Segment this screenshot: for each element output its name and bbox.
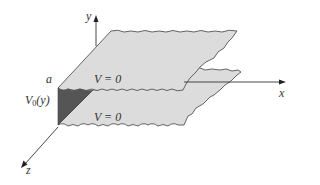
- y-axis-label: y: [86, 10, 91, 22]
- end-potential-label: V0(y): [25, 94, 50, 108]
- x-axis-label: x: [279, 87, 284, 99]
- z-axis: [25, 127, 58, 164]
- height-label-a: a: [46, 73, 52, 85]
- y-axis-arrow-icon: [94, 15, 99, 22]
- top-plate-label: V = 0: [94, 73, 121, 85]
- x-axis-arrow-icon: [279, 80, 286, 85]
- z-axis-label: z: [26, 164, 31, 176]
- end-potential-argument: (y): [36, 93, 49, 107]
- bottom-plate-label: V = 0: [94, 111, 121, 123]
